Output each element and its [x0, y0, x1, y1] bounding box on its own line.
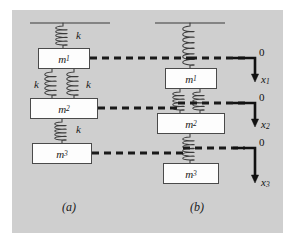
mass-box-a-m2: m2	[30, 98, 98, 119]
a-spring-m1-m2-left	[45, 69, 57, 98]
mass-box-b-m1: m1	[165, 68, 217, 89]
a-spring-ceiling-m1	[56, 23, 68, 48]
axis-x1-line	[233, 58, 255, 75]
axis-origin-label-x3: 0	[259, 136, 265, 148]
axis-variable-label-x2: x2	[261, 118, 270, 131]
axis-origin-label-x2: 0	[259, 91, 265, 103]
axis-x1-arrowhead	[251, 74, 258, 82]
spring-constant-label-k4: k	[76, 123, 81, 135]
axis-x2-arrowhead	[251, 119, 258, 127]
figure-root: m1 m2 m3 m1 m2 m3 k k k k 0 x1 0 x2 0 x3…	[0, 0, 297, 251]
axis-variable-label-x3: x3	[261, 176, 270, 189]
mass-box-a-m3: m3	[32, 143, 92, 164]
axis-x3-arrowhead	[251, 175, 258, 183]
mass-box-b-m3: m3	[163, 163, 219, 184]
subfigure-caption-b: (b)	[190, 200, 204, 215]
axis-x2-line	[233, 103, 255, 120]
figure-vector-layer	[0, 0, 297, 251]
spring-constant-label-k1: k	[76, 29, 81, 41]
a-spring-m2-m3	[55, 119, 67, 143]
axis-variable-label-x1: x1	[261, 73, 270, 86]
axis-origin-label-x1: 0	[259, 46, 265, 58]
mass-box-a-m1: m1	[38, 48, 90, 69]
subfigure-caption-a: (a)	[62, 200, 76, 215]
axis-x3-line	[233, 148, 255, 176]
spring-constant-label-k2: k	[34, 78, 39, 90]
a-spring-m1-m2-right	[67, 69, 79, 98]
b-spring-m1-m2-right	[193, 89, 205, 113]
spring-constant-label-k3: k	[86, 78, 91, 90]
b-spring-ceiling-m1	[183, 23, 195, 68]
mass-box-b-m2: m2	[157, 113, 225, 134]
